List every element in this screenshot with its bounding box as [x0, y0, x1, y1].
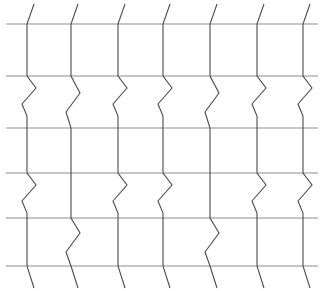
- vertical-zigzag-lines-group: [22, 4, 312, 288]
- vertical-zigzag-line-4: [158, 4, 172, 288]
- zigzag-grid-figure: [0, 0, 323, 291]
- vertical-zigzag-line-1: [22, 4, 36, 288]
- vertical-zigzag-line-6: [252, 4, 266, 288]
- pattern-canvas: [0, 0, 323, 291]
- vertical-zigzag-line-2: [66, 4, 80, 288]
- horizontal-lines-group: [6, 24, 318, 266]
- vertical-zigzag-line-3: [113, 4, 127, 288]
- vertical-zigzag-line-5: [205, 4, 219, 288]
- vertical-zigzag-line-7: [298, 4, 312, 288]
